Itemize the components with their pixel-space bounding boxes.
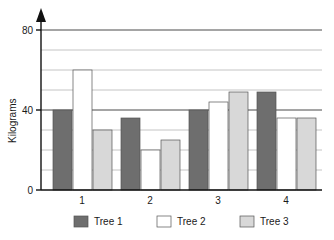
- x-tick-label-2: 2: [147, 195, 153, 206]
- bar-tree3-cat2: [161, 140, 180, 190]
- bar-tree2-cat4: [277, 118, 296, 190]
- legend-swatch-tree1: [74, 216, 88, 227]
- x-tick-label-3: 3: [215, 195, 221, 206]
- bar-tree3-cat3: [229, 92, 248, 190]
- bar-tree2-cat1: [73, 70, 92, 190]
- y-tick-label-40: 40: [22, 105, 34, 116]
- legend-swatch-tree2: [157, 216, 171, 227]
- x-tick-label-1: 1: [79, 195, 85, 206]
- legend-label-tree2: Tree 2: [177, 216, 206, 227]
- bar-tree2-cat2: [141, 150, 160, 190]
- legend-item-tree2: Tree 2: [157, 216, 206, 227]
- y-tick-label-0: 0: [27, 185, 33, 196]
- bar-chart: 80 40 0 Kilograms 1 2 3 4 Tree 1 Tree 2 …: [0, 0, 334, 240]
- legend-label-tree1: Tree 1: [94, 216, 123, 227]
- legend-swatch-tree3: [240, 216, 254, 227]
- x-tick-label-4: 4: [283, 195, 289, 206]
- chart-canvas: 80 40 0 Kilograms 1 2 3 4 Tree 1 Tree 2 …: [0, 0, 334, 240]
- bar-tree3-cat1: [93, 130, 112, 190]
- legend-item-tree3: Tree 3: [240, 216, 289, 227]
- bar-tree3-cat4: [297, 118, 316, 190]
- bar-tree1-cat1: [53, 110, 72, 190]
- bar-tree1-cat3: [189, 110, 208, 190]
- bar-tree1-cat4: [257, 92, 276, 190]
- legend-label-tree3: Tree 3: [260, 216, 289, 227]
- y-tick-label-80: 80: [22, 25, 34, 36]
- y-axis-title: Kilograms: [7, 99, 18, 143]
- bar-tree1-cat2: [121, 118, 140, 190]
- legend-item-tree1: Tree 1: [74, 216, 123, 227]
- bar-tree2-cat3: [209, 102, 228, 190]
